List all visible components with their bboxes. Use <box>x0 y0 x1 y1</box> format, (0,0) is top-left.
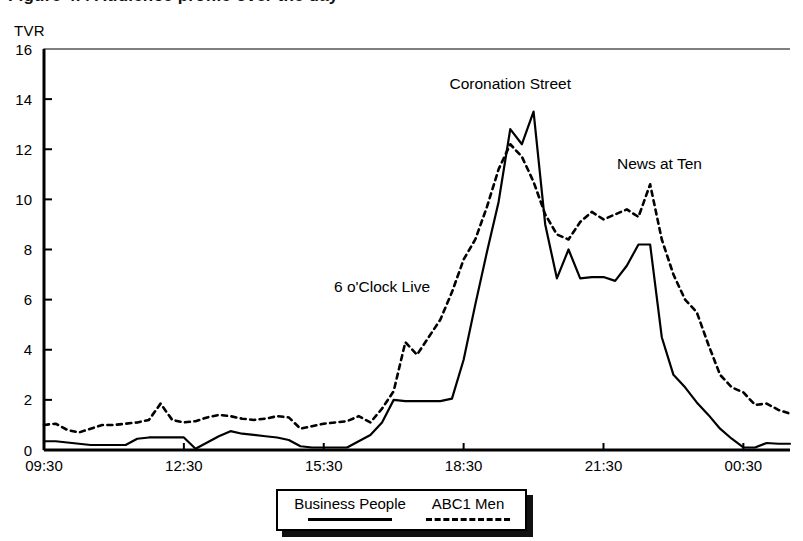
annotation-6-o-clock-live: 6 o'Clock Live <box>334 278 430 295</box>
x-axis-tick-label: 12:30 <box>165 457 203 474</box>
legend-swatch-dashed-line <box>426 518 510 521</box>
legend-item-abc1-men: ABC1 Men <box>418 495 518 521</box>
legend-label-business-people: Business People <box>286 495 414 513</box>
x-axis-tick-label: 18:30 <box>445 457 483 474</box>
legend: Business People ABC1 Men <box>276 489 527 531</box>
y-axis-tick-label: 10 <box>15 191 32 208</box>
y-axis-tick-label: 2 <box>24 391 32 408</box>
y-axis-tick-label: 6 <box>24 291 32 308</box>
figure-root: Figure 4.4 Audience profile over the day… <box>0 0 803 541</box>
y-axis-tick-label: 12 <box>15 141 32 158</box>
plot-frame <box>44 49 790 450</box>
annotation-news-at-ten: News at Ten <box>617 155 702 172</box>
legend-swatch-solid-line <box>308 518 392 521</box>
y-axis-tick-label: 16 <box>15 41 32 58</box>
y-axis-tick-label: 8 <box>24 241 32 258</box>
y-axis-tick-label: 14 <box>15 91 32 108</box>
x-axis-tick-label: 09:30 <box>25 457 63 474</box>
y-axis-tick-label: 4 <box>24 341 32 358</box>
x-axis-tick-label: 00:30 <box>725 457 763 474</box>
annotation-coronation-street: Coronation Street <box>450 75 572 92</box>
x-axis-tick-label: 21:30 <box>585 457 623 474</box>
legend-item-business-people: Business People <box>286 495 414 521</box>
line-chart: 024681012141609:3012:3015:3018:3021:3000… <box>0 0 803 541</box>
x-axis-tick-label: 15:30 <box>305 457 343 474</box>
y-axis-tick-label: 0 <box>24 442 32 459</box>
legend-label-abc1-men: ABC1 Men <box>418 495 518 513</box>
